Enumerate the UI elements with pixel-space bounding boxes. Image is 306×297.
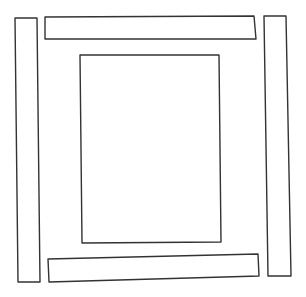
center-rect: [80, 55, 221, 243]
diagram-canvas: [0, 0, 306, 297]
top-bar: [45, 16, 256, 39]
left-bar: [15, 18, 40, 282]
bottom-bar: [48, 254, 259, 282]
right-bar: [264, 16, 291, 276]
